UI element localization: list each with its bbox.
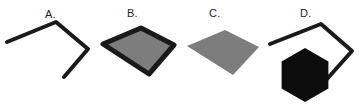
panel-label-c: C. bbox=[209, 8, 220, 19]
panel-label-a: A. bbox=[45, 9, 56, 20]
shape-c-gray-quadrilateral bbox=[187, 30, 259, 75]
panel-label-d: D. bbox=[300, 8, 311, 19]
shape-a-open-polyline bbox=[7, 22, 88, 77]
shape-b-gray-quadrilateral bbox=[103, 28, 174, 74]
shape-b-canvas bbox=[95, 0, 185, 111]
figure-root: A. B. C. D. bbox=[0, 0, 363, 111]
shape-d-black-hexagon-occluder bbox=[282, 48, 329, 102]
panel-b bbox=[95, 0, 185, 111]
panel-d bbox=[265, 0, 363, 111]
shape-c-canvas bbox=[185, 0, 265, 111]
shape-d-canvas bbox=[265, 0, 363, 111]
panel-c bbox=[185, 0, 265, 111]
panel-label-b: B. bbox=[127, 8, 138, 19]
